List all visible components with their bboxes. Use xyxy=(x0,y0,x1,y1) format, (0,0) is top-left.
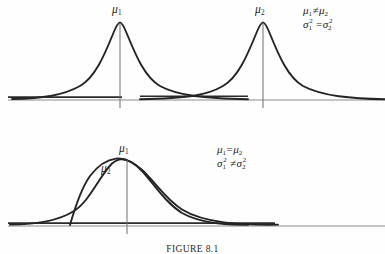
top-condition-means: μ1≠μ2 xyxy=(303,3,335,17)
figure-caption: FIGURE 8.1 xyxy=(0,243,385,254)
bottom-condition-variances: σ12≠σ22 xyxy=(217,156,249,170)
bottom-condition-means: μ1=μ2 xyxy=(217,142,249,156)
top-condition-variances: σ12=σ22 xyxy=(303,17,335,31)
top-curve-1 xyxy=(12,22,248,99)
top-mu-2-label: μ2 xyxy=(255,4,264,16)
bottom-condition-annotation: μ1=μ2 σ12≠σ22 xyxy=(217,142,249,170)
bottom-panel-group xyxy=(8,159,385,234)
top-panel-group xyxy=(8,22,385,108)
top-condition-annotation: μ1≠μ2 σ12=σ22 xyxy=(303,3,335,31)
bottom-mu-1-label: μ1 xyxy=(119,143,128,155)
figure-drawing xyxy=(0,0,385,254)
bottom-mu-2-label: μ2 xyxy=(101,163,110,175)
figure-container: μ1 μ2 μ1≠μ2 σ12=σ22 μ1 μ2 μ1=μ2 σ12≠σ22 … xyxy=(0,0,385,254)
top-mu-1-label: μ1 xyxy=(112,4,121,16)
